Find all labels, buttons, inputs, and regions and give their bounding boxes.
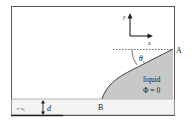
- wetting-diagram: y x θs A B liquid Φ = 0 ε=εs d: [0, 0, 195, 127]
- point-a-label: A: [176, 46, 182, 55]
- y-axis-label: y: [122, 14, 126, 20]
- point-b-label: B: [98, 103, 103, 112]
- x-axis-label: x: [147, 40, 151, 46]
- substrate-layer: [12, 99, 175, 115]
- liquid-label: liquid: [143, 75, 161, 84]
- phi-label: Φ = 0: [143, 86, 160, 95]
